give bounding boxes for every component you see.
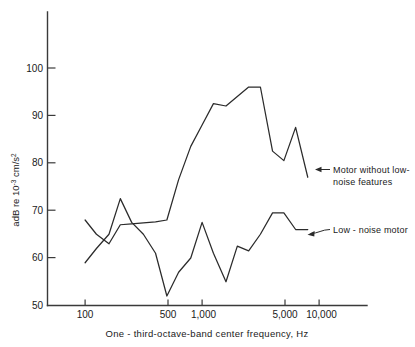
y-axis-title-prefix: adB re 10 — [10, 185, 21, 226]
lower-annotation-line1: Low - noise motor — [333, 225, 408, 235]
x-tick-label-500: 500 — [160, 309, 177, 320]
y-tick-label-80: 80 — [32, 157, 44, 168]
upper-annotation-line2: noise features — [333, 177, 393, 187]
x-tick-label-10000: 10,000 — [306, 309, 337, 320]
svg-text:adB re 10-3 cm/s2: adB re 10-3 cm/s2 — [10, 153, 22, 227]
chart-figure: 100 90 80 70 60 50 adB re 10-3 cm/s2 100… — [0, 0, 415, 347]
upper-annotation-line1: Motor without low- — [333, 165, 410, 175]
x-tick-label-100: 100 — [77, 309, 94, 320]
x-tick-label-1000: 1,000 — [191, 309, 216, 320]
y-tick-label-100: 100 — [26, 63, 43, 74]
y-tick-label-70: 70 — [32, 205, 44, 216]
x-axis-title: One - third-octave-band center frequency… — [105, 328, 308, 339]
y-tick-label-60: 60 — [32, 252, 44, 263]
y-tick-label-50: 50 — [32, 300, 44, 311]
x-tick-label-5000: 5,000 — [272, 309, 297, 320]
y-axis-title-exponent2: 2 — [10, 153, 17, 157]
y-axis-title: adB re 10-3 cm/s2 — [10, 153, 22, 227]
y-axis-title-mid: cm/s — [10, 157, 21, 180]
y-tick-label-90: 90 — [32, 110, 44, 121]
